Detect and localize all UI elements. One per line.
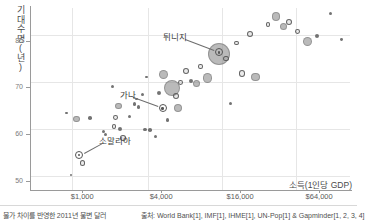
data-bubble[interactable] xyxy=(118,127,122,131)
data-bubble[interactable] xyxy=(174,104,182,112)
data-bubble[interactable] xyxy=(73,116,80,123)
annotation-target-dot xyxy=(161,107,163,109)
annotation-label: 가나 xyxy=(120,88,136,100)
data-bubble[interactable] xyxy=(143,128,147,132)
gridline-horizontal xyxy=(30,176,350,177)
y-tick-label: 50 xyxy=(5,177,23,184)
data-bubble[interactable] xyxy=(113,115,118,120)
data-bubble[interactable] xyxy=(266,22,270,26)
data-bubble[interactable] xyxy=(166,118,169,121)
data-bubble[interactable] xyxy=(315,34,319,38)
data-bubble[interactable] xyxy=(88,116,92,120)
data-bubble[interactable] xyxy=(247,31,253,37)
data-bubble[interactable] xyxy=(80,160,85,165)
annotation-label: 소말리아 xyxy=(99,134,131,146)
y-axis-title-char: ) xyxy=(13,63,28,73)
data-bubble[interactable] xyxy=(303,37,312,46)
footnote-source: 출처: World Bank[1], IMF[1], IHME[1], UN-P… xyxy=(141,210,365,220)
annotation-target-dot xyxy=(218,51,220,53)
data-bubble[interactable] xyxy=(137,105,140,108)
plot-area xyxy=(30,8,350,190)
x-tick-label: $16,000 xyxy=(210,192,270,201)
data-bubble[interactable] xyxy=(154,135,157,138)
y-tick-mark xyxy=(26,87,30,88)
x-tick-label: $64,000 xyxy=(289,192,349,201)
data-bubble[interactable] xyxy=(198,64,202,68)
data-bubble[interactable] xyxy=(115,103,122,110)
data-bubble[interactable] xyxy=(234,41,239,46)
data-bubble[interactable] xyxy=(178,80,183,85)
data-bubble[interactable] xyxy=(329,12,332,15)
y-tick-label: 80 xyxy=(5,37,23,44)
x-tick-label: $1,000 xyxy=(52,192,112,201)
data-bubble[interactable] xyxy=(203,73,212,82)
data-bubble[interactable] xyxy=(239,70,245,76)
footer-divider xyxy=(0,205,357,206)
x-tick-label: $4,000 xyxy=(131,192,191,201)
data-bubble[interactable] xyxy=(229,102,232,105)
gridline-horizontal xyxy=(30,35,350,36)
y-tick-mark xyxy=(26,41,30,42)
data-bubble[interactable] xyxy=(251,73,259,81)
annotation-label: 튀니지 xyxy=(163,30,187,42)
x-axis-line xyxy=(30,190,352,191)
data-bubble[interactable] xyxy=(286,19,292,25)
data-bubble[interactable] xyxy=(295,29,300,34)
data-bubble[interactable] xyxy=(148,128,152,132)
data-bubble[interactable] xyxy=(111,85,114,88)
data-bubble[interactable] xyxy=(173,93,179,99)
data-bubble[interactable] xyxy=(128,115,131,118)
data-bubble[interactable] xyxy=(223,56,228,61)
data-bubble[interactable] xyxy=(183,68,189,74)
data-bubble[interactable] xyxy=(272,12,280,20)
data-bubble[interactable] xyxy=(133,102,137,106)
data-bubble[interactable] xyxy=(193,80,200,87)
footnote-note: 물가 차이를 반영한 2011년 불변 달러 xyxy=(3,210,106,220)
y-tick-label: 70 xyxy=(5,83,23,90)
y-tick-label: 60 xyxy=(5,130,23,137)
x-axis-title: 소득(1인당 GDP) xyxy=(289,178,352,190)
data-bubble[interactable] xyxy=(157,91,161,95)
data-bubble[interactable] xyxy=(65,112,67,114)
data-bubble[interactable] xyxy=(112,124,116,128)
data-bubble[interactable] xyxy=(141,93,144,96)
gridline-horizontal xyxy=(30,129,350,130)
data-bubble[interactable] xyxy=(280,23,287,30)
y-axis-line xyxy=(30,6,31,190)
y-tick-mark xyxy=(26,181,30,182)
data-bubble[interactable] xyxy=(159,70,168,79)
data-bubble[interactable] xyxy=(340,38,343,41)
y-tick-mark xyxy=(26,134,30,135)
